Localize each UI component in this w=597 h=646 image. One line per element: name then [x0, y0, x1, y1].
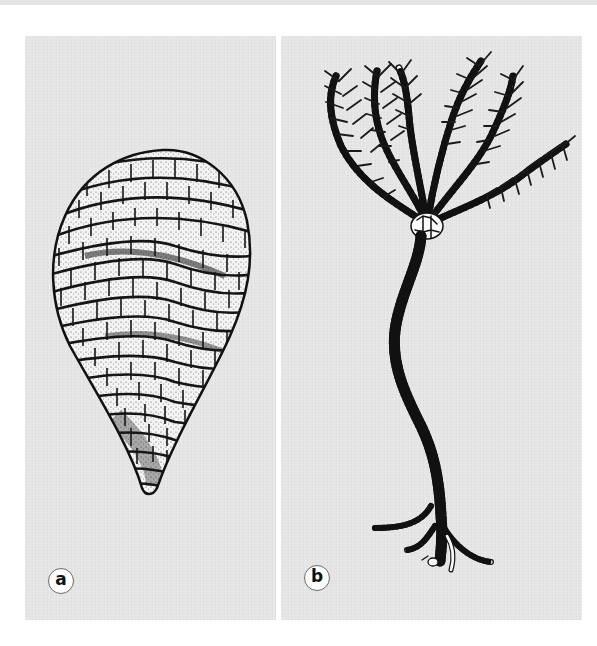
- receptaculitid-fossil-illustration: [25, 36, 276, 620]
- figure-panel-b: b: [281, 36, 582, 620]
- panel-label-a: a: [48, 568, 74, 594]
- top-border-bar: [0, 0, 597, 5]
- crinoid-fossil-illustration: [281, 36, 582, 620]
- figure-panel-a: a: [25, 36, 276, 620]
- panel-label-b: b: [304, 565, 330, 591]
